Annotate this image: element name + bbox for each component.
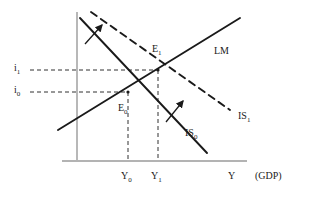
equilibrium-e1-label: E1 (152, 44, 162, 57)
equilibrium-e0-dot (126, 90, 129, 93)
x-axis-label: Y (228, 171, 235, 181)
curve-group (58, 12, 240, 153)
equilibrium-e1-dot (156, 68, 159, 71)
is0-curve-label: IS0 (185, 128, 197, 141)
y-tick-label-i1: i1 (14, 63, 20, 76)
y-tick-label-i0: i0 (14, 85, 20, 98)
x-tick-label-y1: Y1 (151, 171, 162, 184)
equilibrium-e0-label: E0 (118, 103, 128, 116)
x-tick-label-y0: Y0 (121, 171, 132, 184)
lm-curve-label: LM (214, 46, 229, 56)
is1-curve-label: IS1 (238, 111, 250, 124)
x-axis-unit-label: (GDP) (255, 171, 282, 181)
is1-curve (91, 12, 230, 110)
shift-arrow-upper (85, 25, 102, 44)
guide-lines (30, 70, 158, 161)
lm-curve (58, 18, 240, 130)
is-lm-figure: i1 i0 Y0 Y1 Y (GDP) LM IS0 IS1 E0 E1 (0, 0, 311, 199)
